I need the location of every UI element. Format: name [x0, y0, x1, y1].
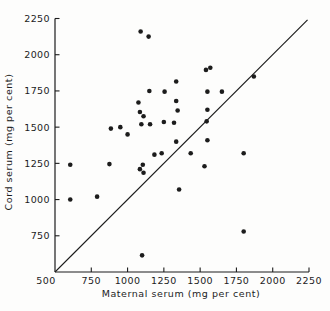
x-tick-label: 1750 — [224, 275, 250, 286]
data-point — [162, 120, 167, 125]
data-point — [177, 187, 182, 192]
y-tick-label: 750 — [31, 230, 50, 241]
scatter-chart: 7501000125015001750200022507501000125015… — [0, 0, 330, 311]
data-point — [172, 120, 177, 125]
y-tick-label: 1750 — [24, 85, 50, 96]
data-point — [241, 151, 246, 156]
data-point — [174, 99, 179, 104]
data-point — [162, 89, 167, 94]
data-point — [138, 110, 143, 115]
data-point — [204, 119, 209, 124]
identity-line — [55, 20, 308, 272]
y-tick-label: 2000 — [24, 49, 50, 60]
data-point — [208, 65, 213, 70]
data-point — [202, 164, 207, 169]
x-tick-label: 2000 — [260, 275, 286, 286]
data-point — [68, 197, 73, 202]
data-point — [147, 89, 152, 94]
y-tick-label: 1500 — [24, 122, 50, 133]
data-point — [118, 125, 123, 130]
y-axis-title: Cord serum (mg per cent) — [3, 74, 14, 211]
x-tick-label: 750 — [82, 275, 101, 286]
data-point — [140, 253, 145, 258]
origin-tick-label: 500 — [36, 275, 55, 286]
y-tick-label: 2250 — [24, 13, 50, 24]
data-point — [109, 126, 114, 131]
data-point — [175, 108, 180, 113]
x-tick-label: 1500 — [187, 275, 213, 286]
data-point — [152, 152, 157, 157]
data-point — [141, 114, 146, 119]
data-point — [174, 79, 179, 84]
x-tick-label: 1000 — [115, 275, 141, 286]
x-tick-label: 1250 — [151, 275, 177, 286]
data-point — [141, 170, 146, 175]
data-point — [159, 151, 164, 156]
data-point — [148, 122, 153, 127]
data-point — [220, 89, 225, 94]
data-point — [136, 100, 141, 105]
data-point — [139, 122, 144, 127]
data-point — [205, 89, 210, 94]
y-tick-label: 1250 — [24, 158, 50, 169]
data-point — [241, 229, 246, 234]
data-point — [141, 163, 146, 168]
plot-generated: 7501000125015001750200022507501000125015… — [24, 13, 322, 286]
data-point — [252, 74, 257, 79]
data-point — [125, 132, 130, 137]
data-point — [95, 194, 100, 199]
data-point — [138, 167, 143, 172]
data-point — [174, 139, 179, 144]
data-point — [68, 163, 73, 168]
data-point — [138, 29, 143, 34]
x-axis-title: Maternal serum (mg per cent) — [102, 288, 261, 299]
data-point — [107, 162, 112, 167]
data-point — [205, 107, 210, 112]
data-point — [188, 151, 193, 156]
x-tick-label: 2250 — [296, 275, 322, 286]
y-tick-label: 1000 — [24, 194, 50, 205]
data-point — [204, 68, 209, 73]
data-point — [146, 34, 151, 39]
plot-svg: 7501000125015001750200022507501000125015… — [0, 0, 330, 311]
data-point — [205, 138, 210, 143]
